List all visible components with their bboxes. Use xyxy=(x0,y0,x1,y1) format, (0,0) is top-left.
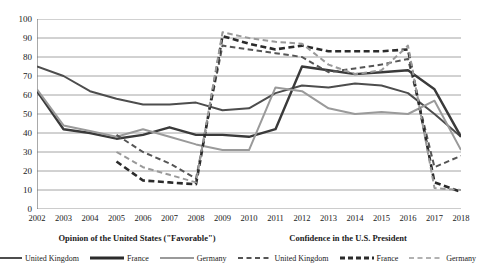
solid-line-swatch-icon xyxy=(90,254,124,262)
dashed-line-swatch-icon xyxy=(238,254,272,262)
series-line-0-united-kingdom xyxy=(117,46,462,179)
legend-item-label: France xyxy=(127,254,149,263)
plot-area xyxy=(37,19,461,209)
y-axis-tick-label: 60 xyxy=(6,91,32,100)
line-chart-svg xyxy=(37,19,461,209)
legend-item-label: France xyxy=(377,254,399,263)
y-axis-tick-label: 70 xyxy=(6,72,32,81)
legend-item[interactable]: United Kingdom xyxy=(238,254,329,263)
legend-item[interactable]: France xyxy=(90,254,149,263)
y-axis-tick-label: 80 xyxy=(6,53,32,62)
legend-item-label: United Kingdom xyxy=(25,254,79,263)
y-axis: 1009080706050403020100 xyxy=(0,0,32,228)
solid-line-swatch-icon xyxy=(0,254,22,262)
series-line--1-united-kingdom xyxy=(37,67,461,137)
y-axis-tick-label: 20 xyxy=(6,167,32,176)
legend-item[interactable]: Germany xyxy=(160,254,227,263)
legend-item[interactable]: Germany xyxy=(409,254,476,263)
y-axis-tick-label: 50 xyxy=(6,110,32,119)
chart-legend: Opinion of the United States ("Favorable… xyxy=(0,231,464,274)
dashed-line-swatch-icon xyxy=(409,254,443,262)
y-axis-tick-label: 10 xyxy=(6,186,32,195)
series-line--1-germany xyxy=(37,87,461,150)
legend-group-titles: Opinion of the United States ("Favorable… xyxy=(0,231,464,245)
legend-group-title-opinion: Opinion of the United States ("Favorable… xyxy=(22,231,252,245)
series-line-0-germany xyxy=(117,32,462,190)
legend-item-label: United Kingdom xyxy=(275,254,329,263)
y-axis-tick-label: 30 xyxy=(6,148,32,157)
y-axis-tick-label: 90 xyxy=(6,34,32,43)
legend-item-label: Germany xyxy=(197,254,227,263)
series-line--1-france xyxy=(37,67,461,139)
solid-line-swatch-icon xyxy=(160,254,194,262)
legend-items: United KingdomFranceGermanyUnited Kingdo… xyxy=(0,248,464,268)
legend-item[interactable]: France xyxy=(340,254,399,263)
dashed-line-swatch-icon xyxy=(340,254,374,262)
legend-item-label: Germany xyxy=(446,254,476,263)
legend-group-title-confidence: Confidence in the U.S. President xyxy=(248,231,448,245)
y-axis-tick-label: 40 xyxy=(6,129,32,138)
y-axis-tick-label: 100 xyxy=(6,15,32,24)
legend-item[interactable]: United Kingdom xyxy=(0,254,79,263)
x-axis: 2002200320042005200620072008200920102011… xyxy=(37,213,461,229)
x-axis-tick-label: 2018 xyxy=(444,213,478,224)
